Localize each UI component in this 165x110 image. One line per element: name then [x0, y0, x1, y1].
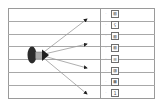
label-row[interactable]: · ⊞	[101, 54, 155, 65]
glyph-box: ʕ	[111, 21, 119, 29]
glyph-box: ▨	[111, 10, 119, 18]
figure-canvas: · ▨ · ʕ · ▨ · ▨ · ⊞ · ▧ · ▦ · 1	[0, 0, 165, 110]
label-row[interactable]: · ▨	[101, 8, 155, 19]
label-row[interactable]: · ʕ	[101, 19, 155, 30]
glyph-box: ▨	[111, 32, 119, 40]
row-bullet-icon: ·	[101, 23, 111, 27]
source-marker-group	[28, 47, 50, 64]
glyph-box: ⊞	[111, 55, 119, 63]
label-row[interactable]: · ▦	[101, 76, 155, 87]
ray-3	[40, 55, 87, 68]
label-row[interactable]: · ▨	[101, 42, 155, 53]
row-bullet-icon: ·	[101, 80, 111, 84]
ray-4	[40, 55, 87, 94]
glyph-box: ▨	[111, 44, 119, 52]
source-body	[36, 52, 43, 59]
source-ellipse	[28, 47, 37, 64]
row-bullet-icon: ·	[101, 91, 111, 95]
label-row[interactable]: · 1	[101, 88, 155, 99]
label-column: · ▨ · ʕ · ▨ · ▨ · ⊞ · ▧ · ▦ · 1	[101, 8, 155, 99]
row-bullet-icon: ·	[101, 12, 111, 16]
row-bullet-icon: ·	[101, 34, 111, 38]
glyph-box: ▦	[111, 78, 119, 86]
diagram-pane	[8, 8, 100, 99]
label-row[interactable]: · ▧	[101, 65, 155, 76]
glyph-box: 1	[111, 89, 119, 97]
row-bullet-icon: ·	[101, 46, 111, 50]
label-row[interactable]: · ▨	[101, 31, 155, 42]
glyph-box: ▧	[111, 67, 119, 75]
row-bullet-icon: ·	[101, 69, 111, 73]
row-bullet-icon: ·	[101, 57, 111, 61]
